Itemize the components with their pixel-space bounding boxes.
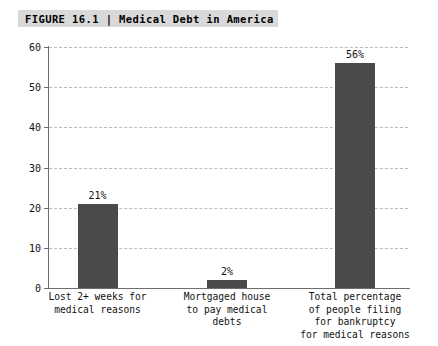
bars-layer: 21%2%56% xyxy=(0,0,438,288)
bar xyxy=(335,63,375,288)
bar-value-label: 56% xyxy=(346,49,364,60)
bar-chart: 0102030405060 21%2%56% Lost 2+ weeks for… xyxy=(0,0,438,346)
bar xyxy=(207,280,247,288)
category-label-line: for bankruptcy xyxy=(270,316,438,329)
category-label-line: medical reasons xyxy=(23,304,173,317)
category-label-line: Total percentage xyxy=(270,291,438,304)
bar-value-label: 2% xyxy=(221,266,233,277)
category-label-line: of people filing xyxy=(270,304,438,317)
category-label-line: Lost 2+ weeks for xyxy=(23,291,173,304)
bar xyxy=(78,204,118,288)
bar-group: 21% xyxy=(78,0,118,288)
x-axis-spine xyxy=(48,288,410,289)
bar-group: 2% xyxy=(207,0,247,288)
x-axis-category-label: Total percentageof people filingfor bank… xyxy=(270,291,438,341)
bar-group: 56% xyxy=(335,0,375,288)
bar-value-label: 21% xyxy=(88,190,106,201)
category-label-line: for medical reasons xyxy=(270,329,438,342)
x-axis-category-label: Lost 2+ weeks formedical reasons xyxy=(23,291,173,316)
